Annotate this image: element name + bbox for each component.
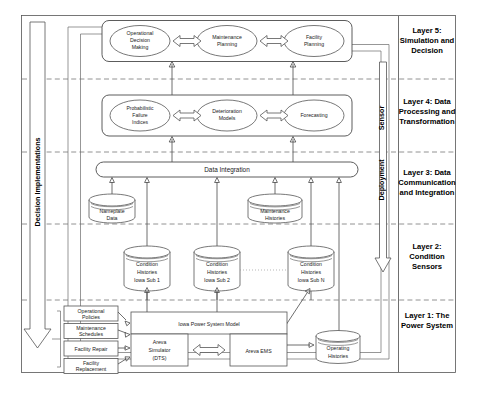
node-label: Making [132, 44, 149, 50]
store-label: Histories [265, 215, 286, 221]
node-label: Planning [304, 41, 324, 47]
store-label: Condition [136, 261, 158, 267]
deployment-label: Deployment [377, 159, 386, 201]
node-label: Failure [132, 112, 148, 118]
layer5-title: Layer 5: [412, 26, 441, 35]
box-label: Policies [82, 314, 100, 320]
layer1-title: Layer 1: The [405, 311, 450, 320]
areva-simulator-label: (DTS) [153, 355, 167, 361]
store-label: Nameplate [99, 208, 124, 214]
layer2-title: Condition [409, 252, 445, 261]
layer4-title: Layer 4: Data [403, 97, 451, 106]
store-label: Iowa Sub N [298, 277, 325, 283]
node-label: Operational [127, 30, 154, 36]
layer2-title: Layer 2: [412, 242, 441, 251]
store-label: Histories [328, 353, 349, 359]
box-label: Schedules [79, 331, 104, 337]
layer2-title: Sensors [412, 262, 442, 271]
node-label: Deterioration [212, 108, 242, 114]
diagram-canvas: Decision Implementations Sensor Deployme… [0, 0, 477, 395]
store-label: Histories [207, 269, 228, 275]
box-label: Facility Repair [75, 346, 108, 352]
node-label: Facility [306, 34, 323, 40]
layer3-title: Communication [398, 178, 456, 187]
box-label: Replacement [76, 366, 107, 372]
iowa-power-system-model-label: Iowa Power System Model [178, 321, 239, 327]
store-label: Data [107, 215, 118, 221]
areva-simulator-label: Areva [153, 339, 167, 345]
store-label: Condition [300, 261, 322, 267]
node-label: Models [219, 115, 236, 121]
node-label: Indices [132, 119, 148, 125]
node-label: Maintenance [212, 34, 242, 40]
data-integration-label: Data Integration [204, 166, 250, 174]
store-label: Operating [327, 345, 350, 351]
node-label: Forecasting [300, 112, 327, 118]
store-label: Condition [206, 261, 228, 267]
layer3-title: Layer 3: Data [403, 168, 451, 177]
node-label: Probabilistic [127, 105, 154, 111]
store-label: Maintenance [260, 208, 290, 214]
store-label: Iowa Sub 1 [134, 277, 160, 283]
layer4-title: Transformation [399, 117, 455, 126]
layer1-title: Power System [401, 321, 453, 330]
node-label: Planning [217, 41, 237, 47]
areva-simulator-label: Simulator [149, 347, 171, 353]
areva-ems-label: Areva EMS [245, 348, 272, 354]
sensor-label: Sensor [377, 106, 386, 131]
decision-implementations-label: Decision Implementations [33, 137, 42, 226]
store-label: Histories [301, 269, 322, 275]
store-label: Histories [137, 269, 158, 275]
layer3-title: and Integration [400, 188, 455, 197]
node-label: Decision [130, 37, 150, 43]
store-label: Iowa Sub 2 [204, 277, 230, 283]
layer4-title: Processing and [399, 107, 456, 116]
layer5-title: Decision [411, 46, 443, 55]
layer5-title: Simulation and [400, 36, 455, 45]
